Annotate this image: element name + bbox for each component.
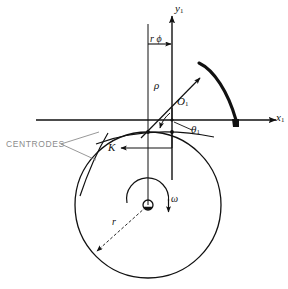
- figure-canvas: y1 x1 r ϕ ρ O1 θ1 CENTRODES K ω r: [0, 0, 288, 289]
- trochoid-foot: [232, 119, 239, 127]
- contact-dot-K: [146, 130, 150, 134]
- moving-centrode-arc: [80, 133, 108, 196]
- origin-dot: [170, 118, 173, 121]
- rho-label: ρ: [154, 80, 159, 91]
- radius-line: [97, 207, 146, 251]
- r-phi-label: r ϕ: [150, 34, 162, 44]
- origin-point-label: O1: [177, 96, 188, 108]
- intersection-dot: [170, 130, 174, 134]
- radius-label: r: [112, 217, 116, 227]
- y-axis-label: y1: [175, 3, 183, 15]
- theta-label: θ1: [191, 124, 200, 136]
- centrodes-label: CENTRODES: [6, 140, 65, 149]
- trochoid-curve: [199, 63, 236, 120]
- theta-leader: [174, 122, 192, 130]
- contact-point-label: K: [108, 142, 115, 153]
- x-axis-label: x1: [276, 112, 284, 124]
- omega-label: ω: [171, 194, 178, 204]
